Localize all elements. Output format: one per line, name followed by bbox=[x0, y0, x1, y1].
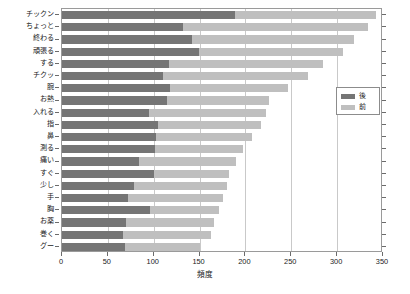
right-axis-tick bbox=[382, 87, 386, 88]
bar-segment-before bbox=[123, 231, 211, 239]
x-axis-tick-label: 300 bbox=[330, 257, 342, 266]
y-axis-label: 腕 bbox=[47, 83, 54, 91]
bar-rows-container bbox=[62, 9, 381, 251]
y-axis-label: お熱 bbox=[40, 95, 54, 103]
right-axis-tick bbox=[382, 124, 386, 125]
x-axis-tick bbox=[153, 252, 154, 256]
bar-segment-after bbox=[62, 60, 169, 68]
bar-row bbox=[62, 133, 252, 141]
right-axis-tick bbox=[382, 222, 386, 223]
right-axis-tick bbox=[382, 161, 386, 162]
right-axis-tick bbox=[382, 209, 386, 210]
bar-segment-after bbox=[62, 23, 183, 31]
bar-segment-before bbox=[154, 170, 229, 178]
right-axis-tick bbox=[382, 100, 386, 101]
y-axis-tick bbox=[55, 112, 59, 113]
y-axis-tick bbox=[55, 26, 59, 27]
bar-row bbox=[62, 60, 323, 68]
bar-segment-after bbox=[62, 133, 156, 141]
bar-segment-after bbox=[62, 48, 199, 56]
bar-row bbox=[62, 243, 200, 251]
bar-row bbox=[62, 84, 288, 92]
bar-segment-after bbox=[62, 218, 126, 226]
legend-item-before: 前 bbox=[340, 102, 376, 112]
y-axis-label: 指 bbox=[47, 120, 54, 128]
bar-segment-after bbox=[62, 170, 154, 178]
legend-label-before: 前 bbox=[359, 103, 366, 111]
legend-item-after: 後 bbox=[340, 91, 376, 101]
bar-segment-after bbox=[62, 121, 158, 129]
y-axis-tick bbox=[55, 222, 59, 223]
x-axis-tick bbox=[107, 252, 108, 256]
bar-row bbox=[62, 23, 368, 31]
y-axis-label: 胸 bbox=[47, 205, 54, 213]
y-axis-tick bbox=[55, 51, 59, 52]
bar-segment-after bbox=[62, 72, 163, 80]
right-axis-ticks bbox=[382, 8, 388, 252]
bar-segment-before bbox=[156, 133, 251, 141]
right-axis-tick bbox=[382, 197, 386, 198]
y-axis-label: 測る bbox=[40, 144, 54, 152]
bar-segment-after bbox=[62, 35, 192, 43]
bar-segment-before bbox=[170, 84, 287, 92]
bar-segment-before bbox=[192, 35, 353, 43]
y-axis-tick bbox=[55, 161, 59, 162]
bar-segment-after bbox=[62, 84, 170, 92]
right-axis-tick bbox=[382, 246, 386, 247]
y-axis-tick bbox=[55, 100, 59, 101]
y-axis-tick bbox=[55, 14, 59, 15]
x-axis-tick-label: 100 bbox=[147, 257, 159, 266]
bar-segment-before bbox=[139, 157, 236, 165]
bar-segment-after bbox=[62, 96, 167, 104]
bar-row bbox=[62, 231, 211, 239]
bar-row bbox=[62, 48, 343, 56]
right-axis-tick bbox=[382, 173, 386, 174]
bar-segment-before bbox=[134, 182, 228, 190]
x-axis-tick bbox=[290, 252, 291, 256]
bar-row bbox=[62, 182, 227, 190]
bar-row bbox=[62, 96, 269, 104]
y-axis-label: 少し bbox=[40, 181, 54, 189]
bar-segment-after bbox=[62, 231, 123, 239]
y-axis-tick bbox=[55, 185, 59, 186]
y-axis-label: 痛い bbox=[40, 156, 54, 164]
y-axis-label: 入れる bbox=[33, 108, 54, 116]
bar-row bbox=[62, 218, 214, 226]
bar-row bbox=[62, 121, 261, 129]
bar-segment-before bbox=[128, 194, 223, 202]
y-axis-tick bbox=[55, 209, 59, 210]
x-axis-tick bbox=[336, 252, 337, 256]
bar-segment-before bbox=[155, 145, 243, 153]
bar-row bbox=[62, 72, 308, 80]
legend-label-after: 後 bbox=[359, 92, 366, 100]
y-axis-category-labels: チックンちょっと終わる頑張るするチクッ腕お熱入れる指鼻測る痛いすぐ少し手胸お薬巻… bbox=[0, 8, 58, 252]
bar-row bbox=[62, 170, 229, 178]
bar-row bbox=[62, 206, 219, 214]
x-axis-tick-label: 350 bbox=[376, 257, 388, 266]
bar-row bbox=[62, 109, 266, 117]
y-axis-tick bbox=[55, 148, 59, 149]
plot-area bbox=[61, 8, 382, 252]
bar-segment-before bbox=[199, 48, 343, 56]
right-axis-tick bbox=[382, 75, 386, 76]
y-axis-tick bbox=[55, 87, 59, 88]
y-axis-label: 手 bbox=[47, 193, 54, 201]
y-axis-label: 巻く bbox=[40, 230, 54, 238]
y-axis-tick bbox=[55, 63, 59, 64]
y-axis-tick bbox=[55, 246, 59, 247]
y-axis-label: チックン bbox=[26, 10, 54, 18]
bar-segment-before bbox=[125, 243, 199, 251]
chart-legend: 後 前 bbox=[336, 87, 380, 115]
stacked-bar-chart: チックンちょっと終わる頑張るするチクッ腕お熱入れる指鼻測る痛いすぐ少し手胸お薬巻… bbox=[0, 0, 410, 294]
bar-segment-after bbox=[62, 109, 149, 117]
right-axis-tick bbox=[382, 185, 386, 186]
right-axis-tick bbox=[382, 26, 386, 27]
x-axis-tick bbox=[244, 252, 245, 256]
y-axis-tick bbox=[55, 39, 59, 40]
bar-segment-after bbox=[62, 157, 139, 165]
right-axis-tick bbox=[382, 14, 386, 15]
y-axis-tick bbox=[55, 197, 59, 198]
right-axis-tick bbox=[382, 39, 386, 40]
bar-segment-after bbox=[62, 194, 128, 202]
y-axis-tick bbox=[55, 173, 59, 174]
